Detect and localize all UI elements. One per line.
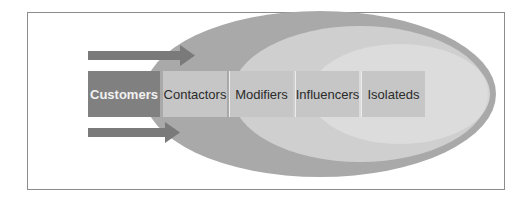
influencers-box: Influencers	[295, 71, 359, 117]
modifiers-label: Modifiers	[235, 87, 288, 102]
isolateds-label: Isolateds	[367, 87, 419, 102]
customers-label: Customers	[90, 87, 158, 102]
influencers-label: Influencers	[296, 87, 360, 102]
modifiers-box: Modifiers	[229, 71, 293, 117]
bottom-arrow-icon	[88, 122, 180, 143]
customers-box: Customers	[88, 71, 160, 117]
contactors-box: Contactors	[163, 71, 227, 117]
contactors-label: Contactors	[164, 87, 227, 102]
isolateds-box: Isolateds	[361, 71, 425, 117]
